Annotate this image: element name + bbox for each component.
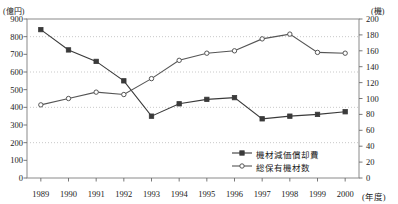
right-axis-tick-160: 160 — [366, 46, 390, 56]
x-axis-tick-2000: 2000 — [327, 189, 363, 199]
left-axis-tick-800: 800 — [1, 32, 23, 42]
right-axis-tick-80: 80 — [366, 109, 390, 119]
legend-label-sohoyu-kizaisu: 総保有機材数 — [256, 161, 310, 173]
left-axis-tick-200: 200 — [1, 138, 23, 148]
right-axis-tick-140: 140 — [366, 62, 390, 72]
right-axis-tick-100: 100 — [366, 94, 390, 104]
right-axis-tick-180: 180 — [366, 30, 390, 40]
left-axis-tick-900: 900 — [1, 14, 23, 24]
right-axis-tick-200: 200 — [366, 14, 390, 24]
chart-container: (億円) (機) (年度) 01002003004005006007008009… — [0, 0, 398, 204]
left-axis-tick-400: 400 — [1, 102, 23, 112]
right-axis-tick-120: 120 — [366, 78, 390, 88]
right-axis-tick-0: 0 — [366, 173, 390, 183]
right-axis-tick-60: 60 — [366, 125, 390, 135]
left-axis-tick-700: 700 — [1, 49, 23, 59]
legend-label-kizai-genka-shokyakuhi: 機材減価償却費 — [256, 148, 319, 160]
left-axis-tick-600: 600 — [1, 67, 23, 77]
left-axis-tick-300: 300 — [1, 120, 23, 130]
chart-plot-area — [0, 0, 398, 204]
right-axis-tick-40: 40 — [366, 141, 390, 151]
left-axis-tick-0: 0 — [1, 173, 23, 183]
left-axis-tick-500: 500 — [1, 85, 23, 95]
left-axis-tick-100: 100 — [1, 155, 23, 165]
right-axis-tick-20: 20 — [366, 157, 390, 167]
